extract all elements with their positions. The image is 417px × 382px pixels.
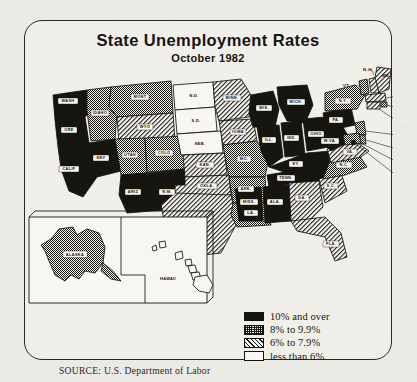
map-label-mississippi-text: MISS. (243, 199, 255, 204)
map-label-louisiana: LA. (244, 210, 258, 216)
map-label-westvirginia: W.VA. (321, 138, 339, 144)
map-state-washington (53, 90, 91, 120)
map-label-southcarolina-text: S.C. (327, 183, 336, 188)
map-label-ohio: OHIO (308, 131, 324, 137)
map-state-connecticut (367, 102, 380, 109)
map-label-idaho-text: IDAHO (93, 110, 107, 115)
map-label-wyoming: WYO (137, 124, 153, 130)
map-label-newyork: N.Y. (335, 98, 351, 104)
map-label-illinois-text: ILL. (265, 137, 273, 142)
map-label-oklahoma-text: OKLA. (200, 183, 214, 188)
map-label-southcarolina: S.C. (324, 183, 338, 189)
map-label-virginia: VA. (343, 149, 357, 155)
map-label-iowa: IOWA (230, 129, 246, 135)
map-label-arkansas-text: ARK. (241, 186, 252, 191)
map-label-oklahoma: OKLA. (197, 183, 217, 189)
map-label-louisiana-text: LA. (247, 210, 254, 215)
map-callout-vermont: VT (343, 83, 349, 88)
map-label-virginia-text: VA. (346, 149, 353, 154)
map-label-tennessee: TENN. (277, 175, 295, 181)
inset-label-hawaii-text: HAWAII (160, 276, 176, 281)
legend-swatch-gray-stipple (244, 325, 264, 335)
map-callout-newhampshire: N.H. (363, 67, 373, 72)
map-state-florida (291, 217, 347, 261)
legend-label-10-and-over: 10% and over (270, 311, 330, 322)
map-label-missouri: MO. (237, 156, 251, 162)
map-label-newmexico-text: N.M. (162, 189, 172, 194)
legend-item-6-to-7-9: 6% to 7.9% (244, 336, 394, 349)
map-label-montana: MONT (131, 94, 149, 100)
map-label-montana-text: MONT (134, 94, 147, 99)
map-label-oregon: ORE (61, 127, 77, 133)
page-title: State Unemployment Rates (25, 31, 391, 50)
map-state-rhodeisland (381, 102, 387, 107)
map-label-alabama-text: ALA. (270, 199, 280, 204)
map-state-vermont (359, 79, 369, 95)
map-label-westvirginia-text: W.VA. (324, 138, 336, 143)
map-state-georgia (289, 181, 323, 223)
map-label-utah-text: UTAH (124, 152, 136, 157)
legend-item-8-to-9-9: 8% to 9.9% (244, 323, 394, 336)
map-label-minnesota-text: MINN. (226, 95, 239, 100)
map-callout-maine: ME (382, 73, 389, 78)
map-label-michigan: MICH. (287, 99, 305, 105)
map-state-districtofcolumbia (351, 140, 356, 145)
us-choropleth-map: N.H. VT ME MASS R.I. CONN N.J. DEL. MD D… (25, 65, 393, 315)
legend-label-8-to-9-9: 8% to 9.9% (270, 324, 320, 335)
source-note: SOURCE: U.S. Department of Labor (59, 365, 210, 376)
map-label-wisconsin: WIS. (256, 105, 272, 111)
legend-item-10-and-over: 10% and over (244, 310, 394, 323)
map-label-wyoming-text: WYO (140, 124, 150, 129)
map-label-georgia: GA. (295, 195, 309, 201)
page-subtitle: October 1982 (25, 52, 391, 64)
map-label-california-text: CALIF (62, 166, 75, 171)
map-label-colorado-text: COLO (158, 150, 171, 155)
legend-swatch-solid-black (244, 312, 264, 322)
screenshot-root: State Unemployment Rates October 1982 (0, 0, 417, 382)
map-label-washington-text: WASH (61, 98, 74, 103)
map-svg: N.H. VT ME MASS R.I. CONN N.J. DEL. MD D… (25, 65, 393, 315)
map-label-southdakota-text: S.D. (192, 118, 201, 123)
map-label-missouri-text: MO. (240, 156, 248, 161)
map-label-georgia-text: GA. (298, 195, 306, 200)
map-label-illinois: ILL. (262, 137, 276, 143)
map-label-pennsylvania-text: PA. (332, 117, 339, 122)
legend-swatch-white (244, 351, 264, 361)
map-label-michigan-text: MICH. (290, 99, 303, 104)
inset-label-alaska-text: ALASKA (66, 252, 84, 257)
map-label-alabama: ALA. (267, 199, 283, 205)
map-label-idaho: IDAHO (91, 110, 109, 116)
map-label-nebraska: NEB. (195, 141, 206, 146)
map-label-tennessee-text: TENN. (279, 175, 292, 180)
map-label-arizona: ARIZ (125, 189, 141, 195)
map-label-arizona-text: ARIZ (128, 189, 139, 194)
map-label-newyork-text: N.Y. (339, 98, 348, 103)
map-label-california: CALIF (59, 166, 79, 172)
map-state-massachusetts (365, 93, 386, 102)
map-label-florida-text: FLA. (326, 241, 336, 246)
legend-swatch-diagonal-hatch (244, 338, 264, 348)
map-label-florida: FLA. (323, 241, 339, 247)
map-label-indiana-text: IND. (287, 135, 296, 140)
map-label-iowa-text: IOWA (232, 129, 244, 134)
map-label-colorado: COLO (155, 150, 173, 156)
map-label-washington: WASH (58, 98, 78, 104)
map-label-northcarolina: N.C. (336, 162, 352, 168)
map-label-southdakota: S.D. (192, 118, 201, 123)
alaska-hawaii-inset: ALASKA HAWAII (29, 211, 213, 303)
map-label-mississippi: MISS. (240, 199, 258, 205)
map-label-oregon-text: ORE (64, 127, 74, 132)
map-label-kentucky: KY. (289, 161, 303, 167)
map-label-newmexico: N.M. (159, 189, 175, 195)
map-label-kansas-text: KAN. (200, 162, 211, 167)
map-label-kentucky-text: KY. (292, 161, 299, 166)
map-label-ohio-text: OHIO (310, 131, 321, 136)
legend-label-less-than-6: less than 6% (270, 351, 324, 362)
map-label-northcarolina-text: N.C. (339, 162, 348, 167)
map-figure-frame: State Unemployment Rates October 1982 (24, 20, 392, 360)
legend-label-6-to-7-9: 6% to 7.9% (270, 337, 320, 348)
map-label-nebraska-text: NEB. (195, 141, 206, 146)
map-label-arkansas: ARK. (238, 186, 254, 192)
map-label-nevada-text: NEV (96, 155, 105, 160)
map-label-pennsylvania: PA. (329, 117, 343, 123)
